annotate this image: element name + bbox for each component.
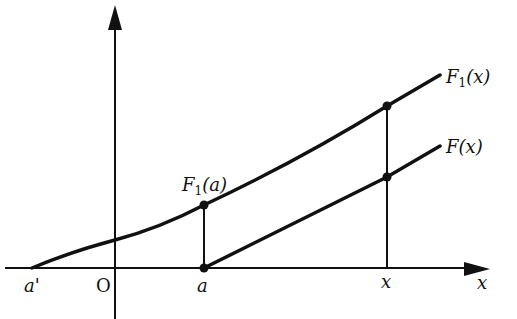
point-a (200, 264, 209, 273)
origin-label: O (96, 275, 111, 296)
point-f1-x (383, 102, 392, 111)
x-axis-label: x (477, 272, 487, 293)
tick-label-a-prime: a' (24, 275, 40, 296)
label-f1-a: F1(a) (181, 174, 227, 198)
tick-label-a: a (197, 275, 208, 296)
curve-f (204, 146, 440, 268)
label-f-x: F(x) (445, 136, 483, 157)
point-f-x (383, 173, 392, 182)
tick-label-x: x (381, 271, 391, 292)
curve-f1 (32, 75, 440, 268)
label-f1-x: F1(x) (445, 66, 490, 90)
diagram-canvas: a' O a x x F1(x) F(x) F1(a) (0, 0, 517, 319)
point-f1-a (200, 201, 209, 210)
y-axis-arrow-icon (108, 5, 122, 30)
